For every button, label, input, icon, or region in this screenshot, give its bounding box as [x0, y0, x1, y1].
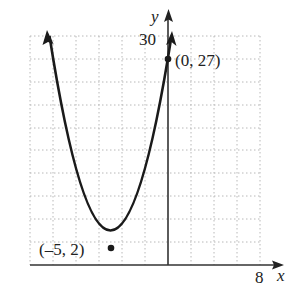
grid	[30, 36, 262, 265]
parabola-curve	[50, 36, 172, 231]
intercept-label: (0, 27)	[175, 51, 220, 70]
point-vertex	[108, 245, 115, 252]
parabola-graph: y 30 (0, 27) (–5, 2) 8 x	[0, 0, 303, 304]
left-curve-arrow-icon	[43, 30, 54, 45]
y-axis-label: y	[149, 7, 159, 26]
y-max-label: 30	[139, 30, 156, 49]
x-axis-label: x	[276, 266, 285, 285]
vertex-label: (–5, 2)	[39, 240, 84, 259]
x-max-label: 8	[255, 268, 264, 287]
point-intercept	[165, 56, 172, 63]
